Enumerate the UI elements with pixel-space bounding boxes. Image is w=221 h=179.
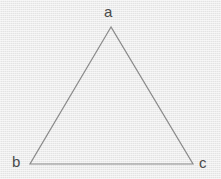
vertex-label-c: c: [199, 155, 207, 170]
triangle-figure: a b c: [0, 0, 221, 179]
vertex-label-b: b: [12, 154, 20, 169]
triangle-outline: [30, 27, 193, 164]
triangle-shape: [0, 0, 221, 179]
vertex-label-a: a: [104, 4, 112, 19]
